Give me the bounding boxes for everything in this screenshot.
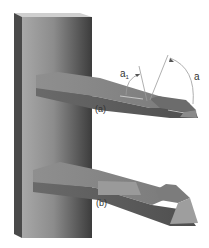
- angle-a1-label: a1: [120, 68, 130, 80]
- angle-a-label: a: [194, 71, 200, 82]
- diagram-canvas: a1 a (a) (b): [0, 0, 209, 248]
- tool-a-label: (a): [95, 104, 106, 114]
- tool-post-diagram: a1 a (a) (b): [0, 0, 209, 248]
- tool-post: [14, 13, 92, 238]
- angle-a-arc: [170, 58, 193, 104]
- angle-a-reference-line: [150, 55, 168, 100]
- tool-b-label: (b): [96, 198, 107, 208]
